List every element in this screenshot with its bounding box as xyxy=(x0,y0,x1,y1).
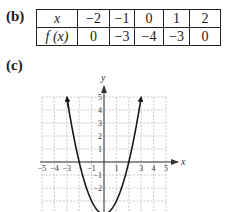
x-tick-label: −5 xyxy=(38,164,47,173)
x-tick-label: 5 xyxy=(164,164,168,173)
x-tick-label: 4 xyxy=(152,164,156,173)
y-tick-label: −2 xyxy=(93,184,102,193)
axes: xy xyxy=(40,72,186,212)
x-tick-label: 1 xyxy=(114,164,118,173)
x-tick-label: −4 xyxy=(50,164,59,173)
y-tick-label: 1 xyxy=(98,145,102,154)
y-tick-label: −1 xyxy=(93,171,102,180)
x-axis-label: x xyxy=(180,156,186,167)
left-arrow xyxy=(67,97,69,108)
tick-labels: −5−4−3−1134554321−1−2 xyxy=(38,93,168,193)
y-tick-label: 2 xyxy=(98,132,102,141)
parabola-graph: xy −5−4−3−1134554321−1−2 xyxy=(0,0,226,212)
y-tick-label: 4 xyxy=(98,106,102,115)
y-tick-label: 3 xyxy=(98,119,102,128)
x-tick-label: −3 xyxy=(63,164,72,173)
y-axis-label: y xyxy=(100,72,106,83)
y-tick-label: 5 xyxy=(98,93,102,102)
x-tick-label: 3 xyxy=(139,164,143,173)
